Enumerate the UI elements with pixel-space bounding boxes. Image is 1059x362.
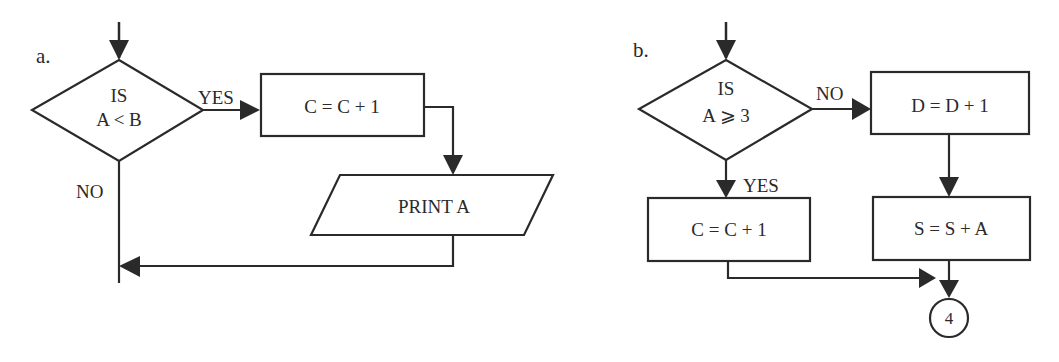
b-decision-line2: A ⩾ 3 — [702, 106, 750, 125]
a-yes-label: YES — [198, 88, 234, 107]
a-output-arrowhead — [443, 155, 463, 175]
b-s-arrowhead — [939, 177, 959, 197]
b-entry-arrowhead — [716, 40, 736, 60]
a-entry-arrowhead — [109, 40, 129, 60]
b-no-label: NO — [816, 84, 843, 103]
a-loop-arrowhead — [119, 256, 140, 277]
a-loop-back-connector — [135, 235, 453, 266]
a-process-to-output-connector — [424, 107, 453, 160]
b-process-yes-text: C = C + 1 — [691, 220, 766, 239]
b-c-arrowhead — [919, 268, 936, 288]
b-connector-arrowhead — [939, 280, 959, 298]
b-process-sum-text: S = S + A — [914, 219, 988, 238]
a-decision-line2: A < B — [96, 110, 142, 129]
a-yes-arrowhead — [240, 100, 260, 120]
b-connector-number: 4 — [945, 310, 954, 327]
flowchart-canvas — [0, 0, 1059, 362]
b-decision-line1: IS — [718, 79, 735, 98]
a-panel-label: a. — [36, 46, 51, 67]
a-process-text: C = C + 1 — [304, 97, 379, 116]
b-yes-arrowhead — [716, 180, 736, 198]
a-decision-line1: IS — [111, 86, 128, 105]
b-process-no-text: D = D + 1 — [911, 96, 988, 115]
b-c-to-connector-line — [728, 261, 925, 278]
b-yes-label: YES — [743, 176, 779, 195]
b-panel-label: b. — [633, 40, 649, 61]
a-no-label: NO — [76, 182, 103, 201]
a-output-text: PRINT A — [398, 197, 470, 216]
b-no-arrowhead — [852, 98, 871, 120]
